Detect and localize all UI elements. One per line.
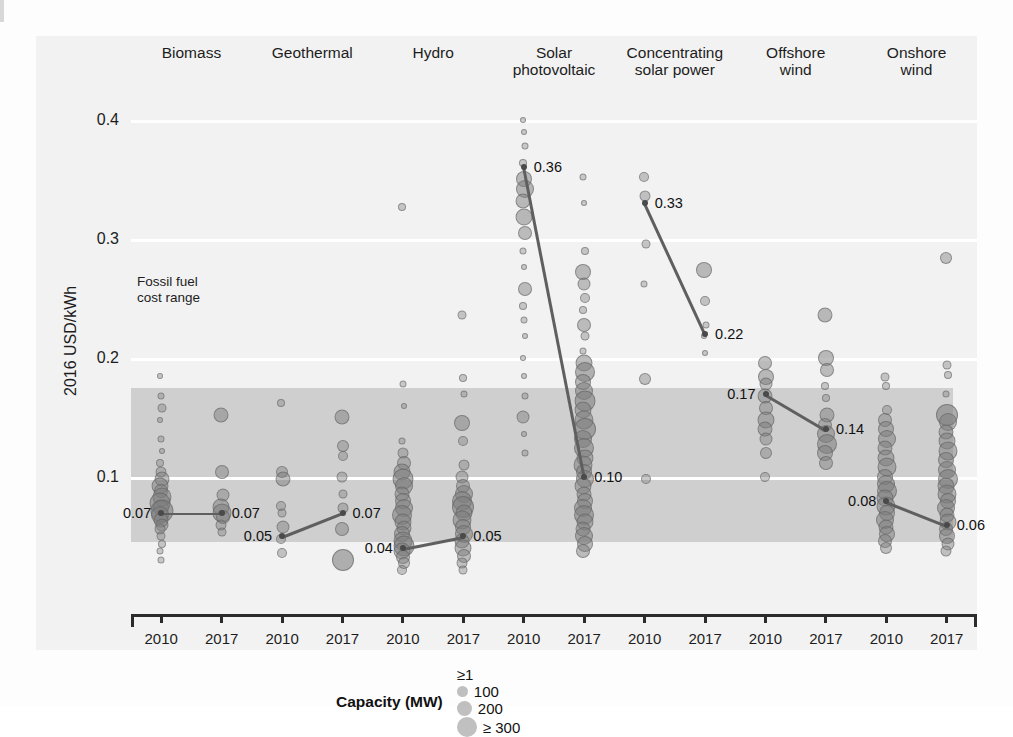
weighted-average-point [340,510,346,516]
scatter-dot [639,373,651,385]
scatter-dot [459,374,467,382]
scatter-dot [158,403,167,412]
x-axis-tick [704,614,707,623]
scatter-dot [940,545,951,556]
legend-size-dot [457,701,472,716]
scatter-dot [519,302,527,310]
scatter-dot [276,520,289,533]
scatter-dot [332,549,354,571]
x-axis-tick [643,614,646,623]
scatter-dot [760,447,772,459]
weighted-average-point [944,522,950,528]
scatter-dot [215,465,229,479]
x-axis-label: 2010 [386,630,419,647]
scatter-dot [521,129,527,135]
legend-item: 100 [457,683,530,700]
scatter-dot [760,472,770,482]
x-axis-tick [401,614,404,623]
scatter-dot [397,565,407,575]
scatter-dot [158,557,165,564]
legend-items: ≥1100200≥ 300 [457,666,538,737]
scatter-dot [157,417,163,423]
scatter-dot [454,415,470,431]
weighted-average-point [158,510,164,516]
weighted-average-connector [161,513,221,516]
scatter-dot [217,527,226,536]
scatter-dot [461,390,468,397]
scatter-dot [944,371,952,379]
scatter-dot [641,474,651,484]
scatter-dot [821,382,829,390]
scatter-dot [822,394,830,402]
scatter-dot [580,173,587,180]
gridline [131,358,977,361]
x-axis-tick [764,614,767,623]
legend-title: Capacity (MW) [336,693,443,711]
weighted-average-point [279,533,285,539]
y-axis-title: 2016 USD/kWh [62,286,80,396]
scatter-dot [213,408,228,423]
legend-item: ≥1 [457,666,530,683]
scatter-dot [278,508,287,517]
technology-header: Onshorewind [837,44,997,78]
x-axis-label: 2010 [507,630,540,647]
scatter-dot [520,355,526,361]
scatter-dot [759,432,772,445]
scatter-dot [521,264,527,270]
scatter-dot [157,547,164,554]
weighted-average-value-label: 0.04 [365,540,393,556]
scatter-dot [581,247,589,255]
scatter-dot [521,431,527,437]
legend-item: ≥ 300 [457,717,530,737]
weighted-average-value-label: 0.33 [655,195,683,211]
weighted-average-value-label: 0.36 [534,159,562,175]
weighted-average-value-label: 0.07 [353,505,381,521]
scatter-dot [521,393,528,400]
scatter-dot [696,262,712,278]
weighted-average-value-label: 0.05 [244,528,272,544]
weighted-average-point [883,498,889,504]
y-axis-tick-label: 0.4 [97,111,119,129]
scatter-dot [277,548,287,558]
x-axis-label: 2017 [568,630,601,647]
legend-item: 200 [457,700,530,717]
scatter-dot [519,247,526,254]
weighted-average-value-label: 0.07 [232,505,260,521]
scatter-dot [518,226,532,240]
x-axis-tick [824,614,827,623]
weighted-average-value-label: 0.07 [123,505,151,521]
scatter-dot [522,333,528,339]
gridline [131,239,977,242]
legend-size-dot [457,717,477,737]
fossil-fuel-band-label: Fossil fuel cost range [137,274,200,306]
figure-panel: 0.070.070.050.070.040.050.360.100.330.22… [36,36,977,650]
scatter-dot [942,390,949,397]
scatter-dot [882,382,890,390]
scatter-dot [275,472,290,487]
x-axis-tick [522,614,525,623]
scatter-dot [156,459,164,467]
x-axis-label: 2010 [628,630,661,647]
scatter-dot [459,565,468,574]
legend-label: ≥ 300 [483,719,520,736]
scatter-dot [820,363,834,377]
scatter-dot [577,318,591,332]
technology-header-line: Onshore [837,44,997,61]
scatter-dot [521,450,528,457]
weighted-average-point [823,426,829,432]
scatter-dot [576,544,590,558]
x-axis-line [131,614,977,617]
scatter-dot [338,489,347,498]
x-axis-tick [462,614,465,623]
scatter-dot [819,456,833,470]
x-axis-end-cap [974,614,977,627]
scatter-dot [334,410,349,425]
band-label-line2: cost range [137,290,200,306]
scatter-dot [399,381,406,388]
weighted-average-point [521,164,527,170]
scatter-dot [700,296,710,306]
weighted-average-point [763,391,769,397]
weighted-average-value-label: 0.05 [473,528,501,544]
scatter-dot [157,373,163,379]
